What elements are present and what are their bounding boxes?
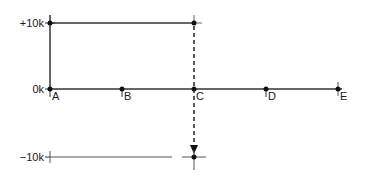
svg-text:C: C (196, 90, 204, 102)
point-plus-10k-a (48, 21, 53, 26)
svg-text:A: A (52, 90, 60, 102)
point-plus-10k-c (192, 21, 197, 26)
point-minus-10k-c (192, 155, 197, 160)
svg-text:D: D (268, 90, 276, 102)
diagram: +10k 0k −10k A B C D E (0, 0, 366, 180)
label-0k: 0k (32, 83, 44, 95)
label-plus-10k: +10k (20, 17, 45, 29)
label-minus-10k: −10k (20, 151, 45, 163)
svg-text:B: B (124, 90, 131, 102)
svg-text:E: E (340, 90, 347, 102)
